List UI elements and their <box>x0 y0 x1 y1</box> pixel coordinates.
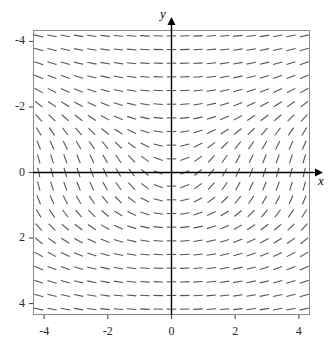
x-tick-label: -4 <box>32 324 56 339</box>
x-tick-label: 2 <box>223 324 247 339</box>
x-axis-title: x <box>318 173 324 189</box>
y-tick-label: 4 <box>5 296 25 311</box>
y-tick-label: 2 <box>5 230 25 245</box>
x-tick-label: 0 <box>160 324 184 339</box>
y-tick-label: 0 <box>5 165 25 180</box>
x-tick-label: -2 <box>96 324 120 339</box>
slope-field-canvas <box>34 31 309 314</box>
plot-frame <box>33 30 310 315</box>
x-tick-label: 4 <box>287 324 311 339</box>
y-tick-label: -2 <box>5 99 25 114</box>
y-axis-title: y <box>160 6 166 22</box>
y-tick-label: -4 <box>5 33 25 48</box>
slope-field-figure: y x -4-2024420-2-4 <box>0 0 335 357</box>
